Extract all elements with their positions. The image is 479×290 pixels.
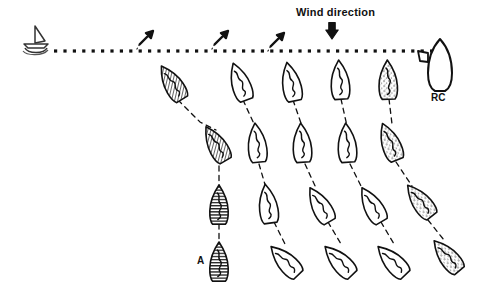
track-D [341,99,347,126]
start-line-dot [317,49,320,52]
boat-C4 [318,240,358,281]
start-line-dot [261,49,264,52]
track-B [243,100,255,126]
start-line-dot [148,49,151,52]
boat-D2 [336,122,357,162]
track-D3 [381,222,394,244]
start-line-dot [120,49,123,52]
boat-A2 [198,122,234,165]
start-line-dot [327,49,330,52]
start-line-dot [411,49,414,52]
start-line-dot [195,49,198,52]
start-line-dot [402,49,405,52]
diagram-canvas [0,0,479,290]
wind-arrow-glyph [326,23,338,40]
start-line-dot [54,49,57,52]
start-line-dot [101,49,104,52]
boat-hull [278,61,304,103]
start-line-dot [336,49,339,52]
boat-B4 [264,240,304,281]
start-line-dot [82,49,85,52]
start-line-dot [63,49,66,52]
track-A [178,100,216,130]
boat-hull [224,60,255,103]
boat-hull [154,61,190,104]
boat-A1 [154,61,190,104]
track-E3 [428,220,444,240]
boat-C1 [278,61,304,103]
start-line-dot [73,49,76,52]
gust-arrow-glyph [212,28,231,47]
race-committee-label: RC [431,92,445,103]
start-line-dot [289,49,292,52]
pin-end-mark-boat [23,26,48,55]
pin-mark-sail [35,26,45,43]
start-line-dot [308,49,311,52]
start-line-dot [270,49,273,52]
start-line-dot [214,49,217,52]
boat-A3 [210,185,228,224]
boat-E1 [378,60,398,100]
boat-hull [400,180,439,222]
boat-D4 [371,240,411,281]
boat-hull [371,240,411,281]
boat-B3 [256,183,280,224]
gust-arrow-2 [208,28,231,51]
gust-arrow-glyph [268,30,287,49]
start-line-dot [242,49,245,52]
start-line-dot [129,49,132,52]
start-line-dot [392,49,395,52]
start-line-dot [223,49,226,52]
start-line-dot [280,49,283,52]
boat-D3 [354,183,390,226]
boat-hull [318,240,358,281]
start-line-dot [345,49,348,52]
track-E [389,99,392,124]
fleet-boats [154,59,467,281]
start-line-dot [167,49,170,52]
boat-D1 [329,59,350,99]
race-committee-boat [418,39,452,91]
gust-arrow-3 [264,30,287,53]
track-C2 [305,164,316,188]
boat-a-label: A [197,255,204,266]
start-line-dot [157,49,160,52]
start-line [54,49,433,52]
boat-B1 [224,60,255,103]
track-C3 [328,222,341,244]
pin-end-mark-boat [23,26,48,55]
gust-arrow-glyph [137,28,156,47]
boat-C2 [291,122,312,162]
boat-hull [246,122,268,163]
start-line-dot [176,49,179,52]
wind-direction-label: Wind direction [296,6,375,18]
start-line-dot [251,49,254,52]
boat-hull [256,183,280,224]
gust-arrow-1 [133,28,156,51]
rc-flag [418,51,428,62]
start-line-dot [110,49,113,52]
boat-hull [264,240,304,281]
boat-hull [374,120,406,163]
boat-hull [354,183,390,226]
boat-hull [302,183,338,226]
pin-mark-deck [24,44,48,48]
start-line-dot [186,49,189,52]
boat-E4 [427,235,466,277]
track-C [293,100,302,126]
start-line-dot [364,49,367,52]
start-line-dot [383,49,386,52]
boat-E2 [374,120,406,163]
track-D2 [350,164,362,188]
start-line-dot [139,49,142,52]
start-line-dot [204,49,207,52]
boat-B2 [246,122,268,163]
boat-C3 [302,183,338,226]
start-line-dot [298,49,301,52]
boat-A4 [210,242,228,281]
boat-E3 [400,180,439,222]
sailing-start-diagram: Wind direction RC A [0,0,479,290]
start-line-dot [355,49,358,52]
wind-direction-arrow [326,23,338,40]
start-line-dot [233,49,236,52]
